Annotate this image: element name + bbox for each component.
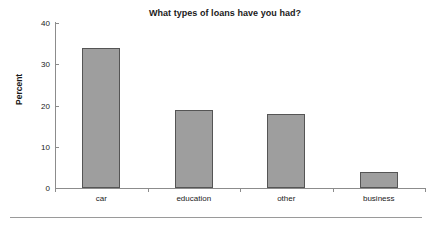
y-axis-tick-label: 40 — [41, 19, 50, 28]
footer-divider — [10, 217, 422, 218]
y-axis-tick-label: 20 — [41, 101, 50, 110]
bar — [82, 48, 120, 188]
y-axis-title: Percent — [14, 74, 24, 105]
y-axis-tick-mark — [55, 147, 59, 148]
x-axis-tick-mark — [148, 188, 149, 192]
plot-area: 010203040 — [55, 23, 425, 188]
x-axis-tick-mark — [240, 188, 241, 192]
page-title: What types of loans have you had? — [55, 8, 395, 18]
bar — [175, 110, 213, 188]
bar — [360, 172, 398, 189]
x-axis-tick-label: business — [363, 194, 395, 203]
y-axis-tick-mark — [55, 64, 59, 65]
y-axis-tick-mark — [55, 23, 59, 24]
x-axis-tick-mark — [333, 188, 334, 192]
x-axis-tick-label: car — [96, 194, 107, 203]
bar — [267, 114, 305, 188]
y-axis-tick-label: 30 — [41, 60, 50, 69]
y-axis-tick-label: 0 — [46, 184, 50, 193]
x-axis-tick-label: other — [277, 194, 295, 203]
x-axis-tick-mark — [425, 188, 426, 192]
y-axis-tick-mark — [55, 106, 59, 107]
bar-chart-figure: What types of loans have you had? Percen… — [0, 0, 431, 228]
y-axis-tick-label: 10 — [41, 142, 50, 151]
x-axis-tick-mark — [55, 188, 56, 192]
x-axis-tick-label: education — [176, 194, 211, 203]
